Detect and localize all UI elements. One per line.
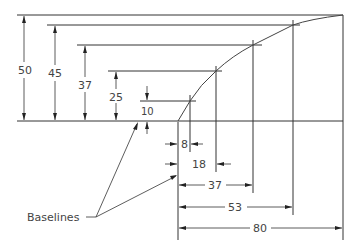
arrowhead-icon — [245, 183, 252, 187]
dimension-50: 50 — [18, 16, 32, 120]
dimension-label-v37: 37 — [78, 79, 92, 92]
arrowhead-icon — [22, 113, 26, 120]
dimension-w-37: 37 — [179, 179, 252, 192]
arrowhead-icon — [53, 26, 57, 33]
dimension-80: 80 — [179, 222, 342, 235]
arrowhead-icon — [114, 113, 118, 120]
dimension-8: 8 — [165, 138, 203, 151]
arrowhead-icon — [179, 205, 186, 209]
arrowhead-icon — [285, 205, 292, 209]
arrowhead-icon — [170, 162, 177, 166]
dimension-label-8: 8 — [181, 138, 188, 151]
baselines-label: Baselines — [27, 211, 80, 224]
arrowhead-icon — [145, 122, 149, 129]
dimension-label-80: 80 — [253, 222, 267, 235]
baselines-callout: Baselines — [27, 122, 177, 224]
dimension-label-50: 50 — [18, 64, 32, 77]
dimension-label-h37: 37 — [208, 179, 222, 192]
arrowhead-icon — [83, 113, 87, 120]
arrowhead-icon — [133, 122, 138, 130]
arrowhead-icon — [83, 46, 87, 53]
arrowhead-icon — [179, 226, 186, 230]
dimension-h-37: 37 — [78, 46, 92, 120]
arrowhead-icon — [22, 16, 26, 23]
arrowhead-icon — [335, 226, 342, 230]
dimension-25: 25 — [109, 72, 123, 120]
arrowhead-icon — [53, 113, 57, 120]
technical-drawing: 50 45 37 25 10 8 — [0, 0, 357, 245]
arrowhead-icon — [145, 93, 149, 100]
dimension-label-18: 18 — [192, 158, 206, 171]
dimension-53: 53 — [179, 201, 292, 214]
dimension-18: 18 — [165, 158, 231, 171]
dimension-45: 45 — [48, 26, 62, 120]
arrowhead-icon — [170, 175, 177, 180]
arrowhead-icon — [217, 162, 224, 166]
dimension-label-10: 10 — [141, 106, 154, 117]
arrowhead-icon — [191, 142, 198, 146]
dimension-label-25: 25 — [109, 91, 123, 104]
dimension-label-45: 45 — [48, 67, 62, 80]
arrowhead-icon — [179, 183, 186, 187]
dimension-label-53: 53 — [228, 201, 242, 214]
arrowhead-icon — [114, 72, 118, 79]
dimension-10: 10 — [141, 86, 154, 134]
arrowhead-icon — [170, 142, 177, 146]
profile-curve — [178, 15, 343, 121]
